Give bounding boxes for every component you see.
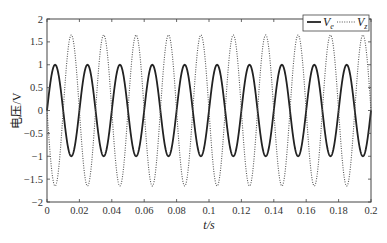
x-tick-label: 0.14 — [265, 205, 284, 216]
y-tick-label: −0.5 — [24, 128, 43, 139]
y-tick-label: 1.5 — [30, 36, 43, 47]
x-axis-label: t/s — [203, 218, 215, 232]
y-tick-label: 2 — [38, 14, 43, 25]
x-tick-label: 0.2 — [364, 205, 377, 216]
y-tick-label: 1 — [38, 59, 43, 70]
y-tick-label: −1.5 — [24, 174, 43, 185]
plot-lines — [47, 35, 371, 186]
x-tick-labels: 00.020.040.060.080.10.120.140.160.180.2 — [44, 205, 377, 216]
x-tick-label: 0.1 — [202, 205, 215, 216]
x-tick-label: 0.06 — [135, 205, 153, 216]
x-tick-label: 0.04 — [103, 205, 122, 216]
x-tick-label: 0.18 — [329, 205, 347, 216]
y-tick-label: 0 — [38, 105, 43, 116]
x-tick-label: 0 — [44, 205, 49, 216]
series-line-ve — [47, 65, 371, 157]
x-tick-label: 0.02 — [70, 205, 88, 216]
y-tick-label: −2 — [32, 197, 43, 208]
x-tick-label: 0.08 — [167, 205, 185, 216]
x-tick-label: 0.12 — [232, 205, 250, 216]
y-tick-label: −1 — [32, 151, 43, 162]
y-tick-labels: −2−1.5−1−0.500.511.52 — [24, 14, 43, 208]
legend: Ve Vz — [303, 15, 369, 31]
x-tick-label: 0.16 — [297, 205, 315, 216]
y-axis-label: 电压/V — [10, 92, 24, 128]
y-tick-label: 0.5 — [30, 82, 43, 93]
line-chart: 00.020.040.060.080.10.120.140.160.180.2 … — [0, 0, 387, 243]
